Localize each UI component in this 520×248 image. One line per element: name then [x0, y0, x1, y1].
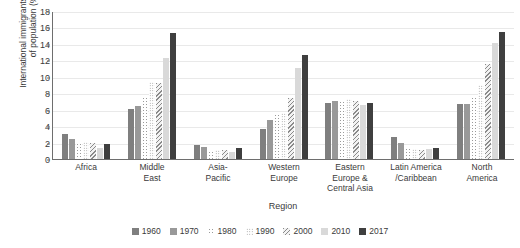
bar [222, 150, 228, 159]
bar [426, 149, 432, 159]
bar-group [251, 12, 317, 159]
legend-swatch-icon [359, 228, 366, 235]
bar [398, 143, 404, 159]
bar [391, 137, 397, 159]
y-axis-tick-mark [47, 61, 50, 62]
y-axis-tick-mark [47, 143, 50, 144]
legend-label: 1980 [218, 226, 237, 236]
legend-item[interactable]: 1960 [132, 226, 161, 236]
x-axis-title: Region [52, 201, 514, 211]
bar-group [316, 12, 382, 159]
legend-item[interactable]: 1980 [208, 226, 237, 236]
bar [208, 151, 214, 159]
legend-swatch-icon [170, 228, 177, 235]
bar-group [185, 12, 251, 159]
bar [76, 143, 82, 159]
bar [325, 103, 331, 159]
bar [464, 104, 470, 159]
legend-item[interactable]: 2017 [359, 226, 388, 236]
x-axis-category-label: Middle East [119, 162, 185, 198]
legend: 1960197019801990200020102017 [0, 226, 520, 236]
x-axis-category-label: Latin America /Caribbean [383, 162, 449, 198]
legend-item[interactable]: 1990 [246, 226, 275, 236]
bar [471, 97, 477, 159]
bar [353, 101, 359, 159]
bar-group [448, 12, 514, 159]
legend-swatch-icon [208, 228, 215, 235]
bar [135, 106, 141, 159]
y-axis-tick-mark [47, 110, 50, 111]
bar [128, 109, 134, 159]
bar [90, 143, 96, 159]
bar [499, 32, 505, 159]
bar [104, 144, 110, 159]
bar [332, 101, 338, 159]
bar [229, 152, 235, 159]
bar-chart: International immigrants as share of pop… [0, 0, 520, 248]
legend-swatch-icon [246, 228, 253, 235]
legend-swatch-icon [132, 228, 139, 235]
y-axis-tick-mark [47, 127, 50, 128]
legend-item[interactable]: 1970 [170, 226, 199, 236]
bar [419, 150, 425, 159]
bar [215, 150, 221, 159]
y-axis-tick-mark [47, 160, 50, 161]
bar [367, 103, 373, 159]
bar [433, 148, 439, 160]
bar [142, 97, 148, 159]
bar [288, 98, 294, 159]
legend-label: 1970 [180, 226, 199, 236]
bar [457, 104, 463, 159]
legend-label: 2017 [369, 226, 388, 236]
legend-label: 2000 [293, 226, 312, 236]
legend-label: 1990 [256, 226, 275, 236]
bar-group [382, 12, 448, 159]
bar [346, 99, 352, 159]
bar [274, 114, 280, 159]
bar [62, 134, 68, 159]
bar [83, 142, 89, 159]
bar [97, 148, 103, 160]
bar [405, 148, 411, 160]
bar [201, 147, 207, 159]
x-axis-category-label: Western Europe [251, 162, 317, 198]
bar [260, 129, 266, 159]
y-axis-tick-mark [47, 44, 50, 45]
y-axis-tick-mark [47, 77, 50, 78]
bar [69, 139, 75, 159]
bar [170, 33, 176, 159]
legend-label: 1960 [142, 226, 161, 236]
x-axis-category-label: Africa [53, 162, 119, 198]
bar-group [119, 12, 185, 159]
bar [295, 68, 301, 159]
bar [267, 120, 273, 159]
bar [236, 148, 242, 159]
y-axis-tick-mark [47, 94, 50, 95]
legend-swatch-icon [321, 228, 328, 235]
x-axis-line [52, 159, 514, 160]
y-axis-tick-mark [47, 28, 50, 29]
bar [163, 58, 169, 159]
bar [281, 113, 287, 159]
bar [302, 55, 308, 159]
bar [478, 85, 484, 159]
bar [339, 101, 345, 159]
bars-area [53, 12, 514, 159]
plot-area: 024681012141618 [52, 12, 514, 160]
legend-item[interactable]: 2010 [321, 226, 350, 236]
x-axis-category-label: Eastern Europe & Central Asia [317, 162, 383, 198]
bar [485, 64, 491, 159]
bar [194, 145, 200, 159]
bar [492, 43, 498, 159]
bar [156, 83, 162, 159]
x-axis-category-label: North America [449, 162, 515, 198]
bar [412, 149, 418, 159]
bar [360, 105, 366, 159]
x-axis-category-labels: AfricaMiddle EastAsia- PacificWestern Eu… [53, 162, 515, 198]
legend-swatch-icon [283, 228, 290, 235]
x-axis-category-label: Asia- Pacific [185, 162, 251, 198]
legend-label: 2010 [331, 226, 350, 236]
legend-item[interactable]: 2000 [283, 226, 312, 236]
y-axis-ticks: 024681012141618 [30, 12, 50, 160]
bar-group [53, 12, 119, 159]
